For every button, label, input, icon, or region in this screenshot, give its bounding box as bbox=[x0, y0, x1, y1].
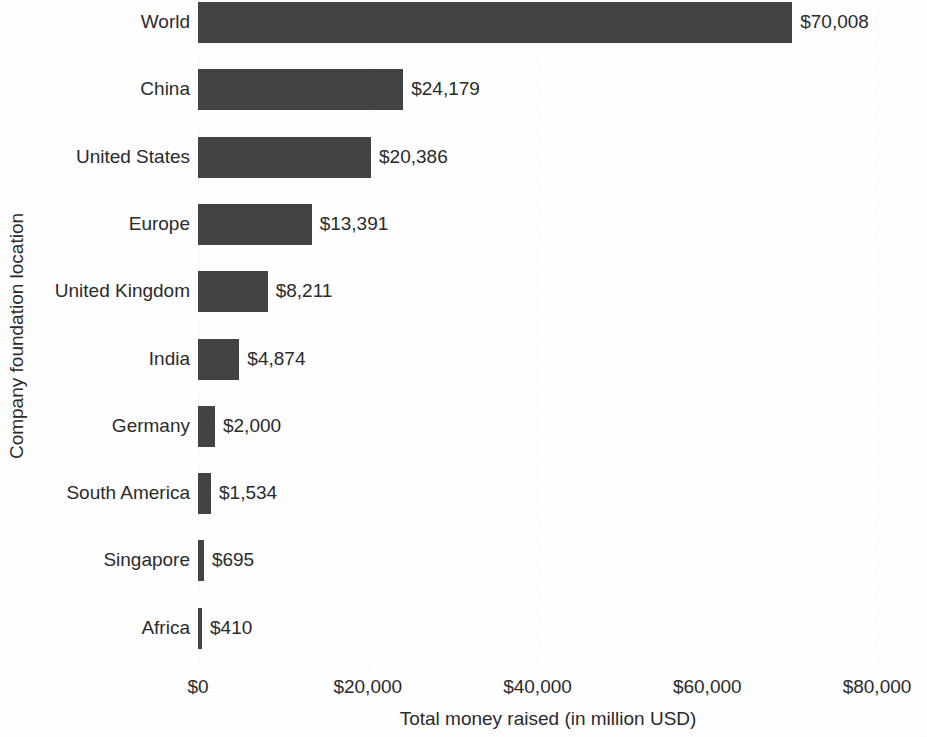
category-label: United Kingdom bbox=[0, 270, 190, 312]
category-label: Germany bbox=[0, 405, 190, 447]
bar bbox=[198, 137, 371, 178]
category-label: Africa bbox=[0, 607, 190, 649]
x-tick-label: $40,000 bbox=[468, 674, 608, 700]
category-label: India bbox=[0, 338, 190, 380]
bar-row: United States$20,386 bbox=[0, 136, 927, 178]
bar-value-label: $13,391 bbox=[320, 203, 389, 245]
bar bbox=[198, 406, 215, 447]
bar-value-label: $70,008 bbox=[800, 1, 869, 43]
bar-value-label: $24,179 bbox=[411, 68, 480, 110]
bar-row: United Kingdom$8,211 bbox=[0, 270, 927, 312]
bar-row: India$4,874 bbox=[0, 338, 927, 380]
plot-area: World$70,008China$24,179United States$20… bbox=[0, 0, 927, 672]
bar-value-label: $4,874 bbox=[247, 338, 305, 380]
category-label: United States bbox=[0, 136, 190, 178]
x-tick-label: $20,000 bbox=[298, 674, 438, 700]
bar bbox=[198, 608, 202, 649]
bar bbox=[198, 2, 792, 43]
category-label: Europe bbox=[0, 203, 190, 245]
category-label: China bbox=[0, 68, 190, 110]
bar-value-label: $410 bbox=[210, 607, 252, 649]
category-label: Singapore bbox=[0, 539, 190, 581]
bar-chart: Company foundation location World$70,008… bbox=[0, 0, 927, 737]
bar-row: Germany$2,000 bbox=[0, 405, 927, 447]
bar bbox=[198, 69, 403, 110]
bar bbox=[198, 339, 239, 380]
bar bbox=[198, 473, 211, 514]
x-axis-title: Total money raised (in million USD) bbox=[198, 706, 898, 732]
bar bbox=[198, 271, 268, 312]
bar-row: Africa$410 bbox=[0, 607, 927, 649]
bar-value-label: $695 bbox=[212, 539, 254, 581]
category-label: South America bbox=[0, 472, 190, 514]
x-tick-label: $0 bbox=[128, 674, 268, 700]
bar-row: World$70,008 bbox=[0, 1, 927, 43]
category-label: World bbox=[0, 1, 190, 43]
x-tick-label: $60,000 bbox=[637, 674, 777, 700]
bar-value-label: $8,211 bbox=[276, 270, 333, 312]
bar-row: Europe$13,391 bbox=[0, 203, 927, 245]
bar-row: Singapore$695 bbox=[0, 539, 927, 581]
bar-value-label: $2,000 bbox=[223, 405, 281, 447]
bar-value-label: $20,386 bbox=[379, 136, 448, 178]
bar bbox=[198, 540, 204, 581]
bar bbox=[198, 204, 312, 245]
x-tick-label: $80,000 bbox=[807, 674, 927, 700]
bar-row: South America$1,534 bbox=[0, 472, 927, 514]
bar-row: China$24,179 bbox=[0, 68, 927, 110]
bar-value-label: $1,534 bbox=[219, 472, 277, 514]
